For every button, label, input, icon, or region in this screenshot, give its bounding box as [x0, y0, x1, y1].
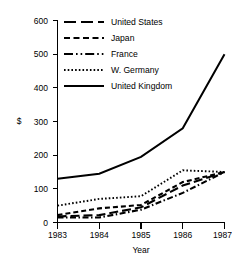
y-tick-label-0: 0 [43, 218, 48, 228]
legend-label-w-germany: W. Germany [111, 65, 159, 75]
legend: United States Japan France W. Germany Un… [64, 17, 172, 91]
legend-label-japan: Japan [111, 33, 135, 43]
x-tick-label-1987: 1987 [213, 230, 232, 240]
y-axis-title: $ [17, 116, 22, 126]
legend-label-united-states: United States [111, 17, 163, 27]
y-tick-label-200: 200 [34, 150, 48, 160]
series-group [58, 54, 225, 217]
chart-canvas: 600 500 400 300 200 100 0 1983 1984 1985… [0, 0, 232, 272]
x-tick-label-1986: 1986 [173, 230, 192, 240]
y-tick-label-500: 500 [34, 49, 48, 59]
y-tick-label-300: 300 [34, 117, 48, 127]
x-tick-label-1983: 1983 [48, 230, 67, 240]
y-tick-label-600: 600 [34, 16, 48, 26]
legend-label-united-kingdom: United Kingdom [111, 81, 172, 91]
y-axis-ticks: 600 500 400 300 200 100 0 [34, 16, 58, 228]
x-axis-ticks: 1983 1984 1985 1986 1987 [48, 223, 232, 241]
x-tick-label-1984: 1984 [90, 230, 109, 240]
line-chart: 600 500 400 300 200 100 0 1983 1984 1985… [0, 0, 232, 272]
y-tick-label-100: 100 [34, 184, 48, 194]
legend-label-france: France [111, 49, 138, 59]
axes [58, 21, 225, 223]
x-tick-label-1985: 1985 [132, 230, 151, 240]
y-tick-label-400: 400 [34, 83, 48, 93]
x-axis-title: Year [132, 245, 149, 255]
